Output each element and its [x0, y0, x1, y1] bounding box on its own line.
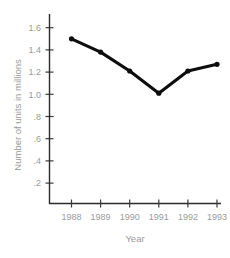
axis-lines: [50, 14, 222, 204]
data-point-1992: [185, 68, 190, 73]
x-tick-label: 1993: [207, 212, 227, 222]
data-line-series: [72, 39, 218, 93]
chart-canvas: 1.6 1.4 1.2 1.0 .8 .6 .4 .2: [0, 0, 230, 258]
y-tick-label: .4: [33, 156, 41, 166]
x-tick-label: 1988: [61, 212, 81, 222]
data-point-1990: [127, 68, 132, 73]
x-tick-label: 1990: [120, 212, 140, 222]
y-tick-label: .8: [33, 112, 41, 122]
x-tick-label: 1991: [149, 212, 169, 222]
data-point-1989: [98, 50, 103, 55]
data-point-1993: [214, 62, 219, 67]
x-tick-label: 1989: [91, 212, 111, 222]
line-chart: 1.6 1.4 1.2 1.0 .8 .6 .4 .2: [0, 0, 230, 258]
y-tick-label: 1.0: [28, 90, 41, 100]
y-tick-label: 1.4: [28, 45, 41, 55]
y-axis-title: Number of units in millions: [12, 59, 23, 171]
y-tick-label: 1.6: [28, 23, 41, 33]
data-markers: [69, 36, 220, 96]
y-tick-label: .6: [33, 134, 41, 144]
y-tick-label: .2: [33, 178, 41, 188]
x-tick-label: 1992: [178, 212, 198, 222]
y-tick-label: 1.2: [28, 67, 41, 77]
data-point-1991: [156, 91, 161, 96]
x-axis-title: Year: [125, 233, 144, 244]
data-point-1988: [69, 36, 74, 41]
